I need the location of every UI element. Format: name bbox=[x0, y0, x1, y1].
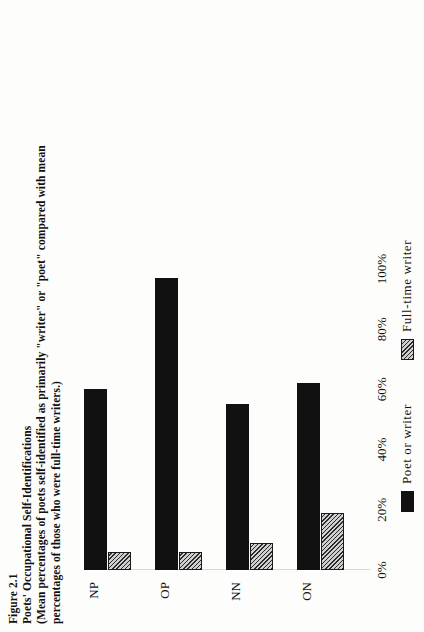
x-tick-60: 60% bbox=[374, 377, 390, 401]
legend-item-full-time-writer: Full-time writer bbox=[399, 240, 415, 360]
bar-group-np: NP bbox=[84, 66, 146, 570]
bar-group-nn: NN bbox=[226, 66, 288, 570]
legend-item-poet-or-writer: Poet or writer bbox=[399, 404, 415, 512]
figure-title: Poets' Occupational Self-Identifications bbox=[20, 204, 34, 624]
category-label-op: OP bbox=[157, 582, 173, 599]
x-tick-20: 20% bbox=[374, 498, 390, 522]
figure-2-1: Figure 2.1 Poets' Occupational Self-Iden… bbox=[0, 0, 424, 632]
rotated-figure-wrapper: Figure 2.1 Poets' Occupational Self-Iden… bbox=[0, 0, 424, 632]
category-label-on: ON bbox=[299, 582, 315, 601]
x-tick-40: 40% bbox=[374, 438, 390, 462]
legend-label-full-time-writer: Full-time writer bbox=[399, 240, 415, 332]
x-axis-ticks: 0% 20% 40% 60% 80% 100% bbox=[374, 66, 396, 570]
figure-subtitle-line-2: percentages of those who were full-time … bbox=[49, 204, 63, 624]
x-tick-100: 100% bbox=[374, 254, 390, 284]
figure-caption: Figure 2.1 Poets' Occupational Self-Iden… bbox=[6, 204, 63, 624]
bar-op-full-time-writer bbox=[179, 552, 202, 570]
x-tick-80: 80% bbox=[374, 317, 390, 341]
x-tick-0: 0% bbox=[374, 561, 390, 578]
bar-chart-plot-area: NP OP NN ON bbox=[84, 66, 370, 570]
bar-on-poet-or-writer bbox=[297, 383, 320, 570]
bar-on-full-time-writer bbox=[321, 513, 344, 570]
figure-subtitle-line-1: (Mean percentages of poets self-identifi… bbox=[34, 204, 48, 624]
chart-legend: Poet or writer Full-time writer bbox=[396, 240, 418, 512]
legend-label-poet-or-writer: Poet or writer bbox=[399, 404, 415, 484]
bar-np-full-time-writer bbox=[108, 552, 131, 570]
category-label-np: NP bbox=[86, 582, 102, 599]
bar-nn-full-time-writer bbox=[250, 543, 273, 570]
bar-op-poet-or-writer bbox=[155, 278, 178, 570]
bar-np-poet-or-writer bbox=[84, 389, 107, 570]
legend-swatch-hatch-icon bbox=[401, 339, 414, 360]
legend-swatch-solid-icon bbox=[401, 491, 414, 512]
category-label-nn: NN bbox=[228, 582, 244, 601]
bar-nn-poet-or-writer bbox=[226, 405, 249, 571]
bar-group-on: ON bbox=[297, 66, 359, 570]
figure-number: Figure 2.1 bbox=[6, 204, 20, 624]
bar-group-op: OP bbox=[155, 66, 217, 570]
